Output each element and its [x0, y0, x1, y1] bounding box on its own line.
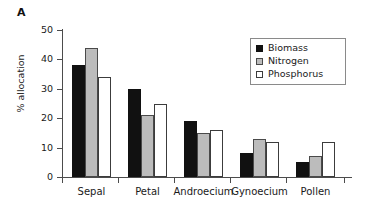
- bar-biomass-sepal: [72, 65, 85, 177]
- y-axis-tick-label: 20: [13, 113, 53, 123]
- bar-biomass-pollen: [296, 162, 309, 177]
- legend-label: Phosphorus: [268, 69, 323, 79]
- bar-biomass-androecium: [184, 121, 197, 177]
- legend-item-phosphorus: Phosphorus: [256, 68, 341, 80]
- bar-nitrogen-petal: [141, 115, 154, 177]
- x-axis-tick: [344, 178, 345, 183]
- chart-legend: BiomassNitrogenPhosphorus: [250, 38, 346, 85]
- legend-item-biomass: Biomass: [256, 42, 341, 54]
- x-axis-tick: [62, 178, 63, 183]
- bar-nitrogen-androecium: [197, 133, 210, 177]
- bar-group: [72, 30, 111, 177]
- legend-swatch-icon: [256, 45, 263, 52]
- y-axis-tick-label: 10: [13, 143, 53, 153]
- x-axis-tick: [174, 178, 175, 183]
- figure-panel-a: A % allocation 01020304050 SepalPetalAnd…: [0, 0, 366, 211]
- y-axis-tick-label: 30: [13, 84, 53, 94]
- bar-group: [184, 30, 223, 177]
- bar-phosphorus-sepal: [98, 77, 111, 177]
- legend-swatch-icon: [256, 58, 263, 65]
- x-axis-tick: [118, 178, 119, 183]
- bar-nitrogen-gynoecium: [253, 139, 266, 177]
- y-axis-tick-label: 40: [13, 54, 53, 64]
- bar-group: [128, 30, 167, 177]
- x-axis-label-pollen: Pollen: [271, 186, 361, 197]
- bar-nitrogen-sepal: [85, 48, 98, 177]
- x-axis-line: [62, 177, 352, 178]
- bar-phosphorus-pollen: [322, 142, 335, 177]
- legend-swatch-icon: [256, 71, 263, 78]
- x-axis-tick: [286, 178, 287, 183]
- bar-phosphorus-gynoecium: [266, 142, 279, 177]
- bar-nitrogen-pollen: [309, 156, 322, 177]
- bar-biomass-petal: [128, 89, 141, 177]
- bar-biomass-gynoecium: [240, 153, 253, 177]
- y-axis-tick-label: 50: [13, 25, 53, 35]
- legend-label: Biomass: [268, 43, 308, 53]
- x-axis-tick: [230, 178, 231, 183]
- bar-phosphorus-androecium: [210, 130, 223, 177]
- legend-label: Nitrogen: [268, 56, 309, 66]
- y-axis-tick-label: 0: [13, 172, 53, 182]
- bar-phosphorus-petal: [154, 104, 167, 178]
- legend-item-nitrogen: Nitrogen: [256, 55, 341, 67]
- panel-letter: A: [17, 6, 26, 19]
